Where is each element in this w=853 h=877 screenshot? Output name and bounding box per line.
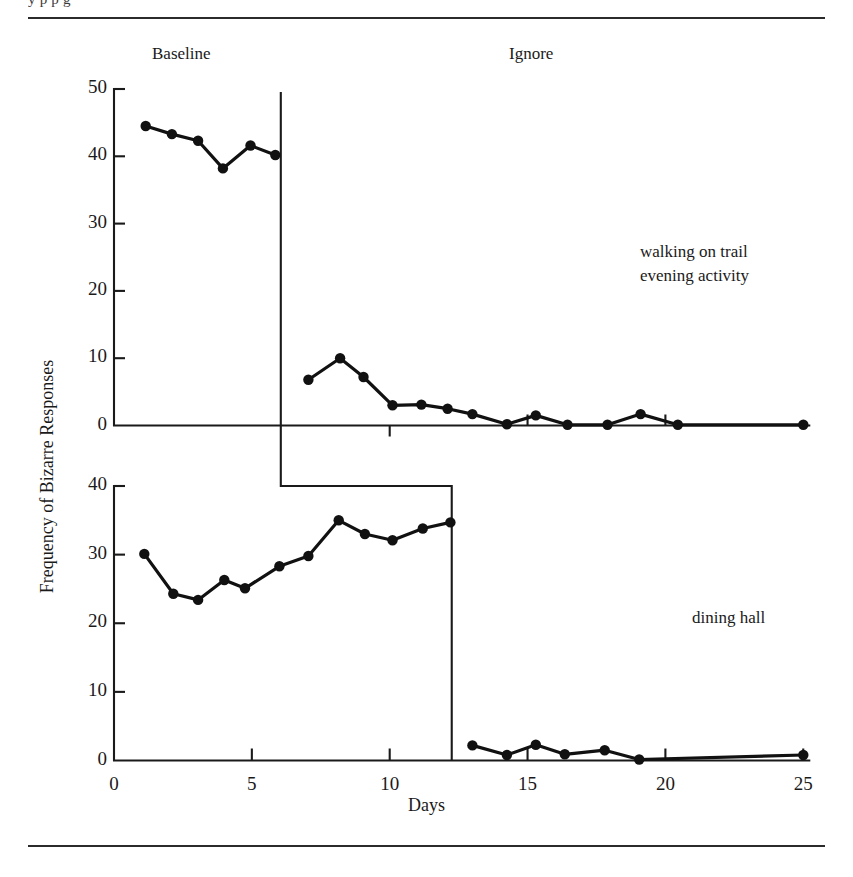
top-ignore-point-13: [798, 420, 808, 430]
bottom-baseline-point-10: [418, 523, 428, 533]
bottom-baseline-point-6: [303, 551, 313, 561]
bottom-baseline-point-2: [193, 595, 203, 605]
bottom-ignore-point-2: [531, 740, 541, 750]
top-baseline-point-3: [218, 163, 228, 173]
bottom-panel-axis: [114, 486, 809, 761]
bottom-ignore-point-5: [634, 754, 644, 764]
bottom-baseline-point-1: [168, 589, 178, 599]
bottom-baseline-point-5: [274, 561, 284, 571]
bottom-baseline-point-8: [360, 529, 370, 539]
top-ignore-point-11: [635, 409, 645, 419]
bottom-baseline-point-3: [219, 575, 229, 585]
top-ignore-point-10: [602, 420, 612, 430]
bottom-ignore-point-1: [502, 750, 512, 760]
bottom-baseline-point-0: [139, 549, 149, 559]
top-ignore-point-5: [442, 404, 452, 414]
top-baseline-point-0: [141, 121, 151, 131]
top-baseline-point-1: [167, 129, 177, 139]
top-panel-axis: [114, 89, 809, 426]
bottom-baseline-point-11: [445, 517, 455, 527]
top-ignore-point-4: [416, 399, 426, 409]
top-ignore-point-9: [562, 420, 572, 430]
top-baseline-point-5: [270, 150, 280, 160]
bottom-ignore-point-6: [798, 750, 808, 760]
top-baseline-point-4: [245, 140, 255, 150]
bottom-ignore-point-4: [600, 745, 610, 755]
top-baseline-point-2: [193, 136, 203, 146]
bottom-baseline-point-9: [387, 535, 397, 545]
top-ignore-point-0: [303, 375, 313, 385]
top-ignore-point-1: [335, 353, 345, 363]
figure-page: y p p g Baseline Ignore walking on trail…: [0, 0, 853, 877]
bottom-ignore-point-0: [467, 740, 477, 750]
bottom-baseline-line: [144, 520, 450, 600]
top-ignore-point-7: [502, 419, 512, 429]
top-ignore-point-12: [673, 420, 683, 430]
bottom-ignore-point-3: [560, 749, 570, 759]
top-ignore-point-2: [358, 372, 368, 382]
top-ignore-line: [308, 358, 803, 425]
top-ignore-point-8: [531, 410, 541, 420]
top-baseline-line: [146, 126, 276, 168]
top-ignore-point-3: [387, 400, 397, 410]
bottom-baseline-point-4: [240, 583, 250, 593]
chart-canvas: [0, 0, 853, 877]
top-ignore-point-6: [467, 409, 477, 419]
bottom-baseline-point-7: [334, 515, 344, 525]
